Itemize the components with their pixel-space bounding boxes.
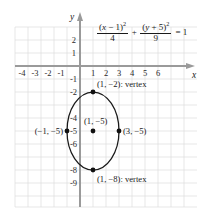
x-tick: -4 <box>18 68 26 78</box>
equation-plus-sign: + <box>132 28 137 37</box>
x-axis-arrow <box>186 63 195 69</box>
y-tick: -6 <box>70 139 77 149</box>
x-tick: 2 <box>104 68 108 78</box>
y-tick: -5 <box>70 126 77 136</box>
term1-exponent: 2 <box>123 20 126 27</box>
point-center <box>91 129 96 134</box>
term2-exponent: 2 <box>166 20 169 27</box>
term2-constant: 5 <box>159 22 164 32</box>
equation-term-2: (y + 5)2 9 <box>140 21 171 43</box>
term1-numerator: (x − 1)2 <box>97 21 128 34</box>
point-left-covertex <box>65 129 70 134</box>
y-tick: -4 <box>70 113 78 123</box>
term2-operator: + <box>152 22 157 32</box>
x-tick: 5 <box>143 68 147 78</box>
point-bottom-vertex <box>91 168 96 173</box>
y-tick: -8 <box>70 165 77 175</box>
x-tick: 6 <box>156 68 160 78</box>
x-tick: -1 <box>57 68 64 78</box>
y-tick: 2 <box>72 35 76 45</box>
term1-operator: − <box>108 22 113 32</box>
point-right-covertex <box>117 129 122 134</box>
y-tick: -9 <box>70 178 77 188</box>
equation-term-1: (x − 1)2 4 <box>97 21 128 43</box>
term2-denominator: 9 <box>154 34 159 44</box>
y-tick: -1 <box>70 74 77 84</box>
label-right-covertex: (3, −5) <box>123 126 147 136</box>
y-axis-arrow <box>77 12 83 21</box>
x-tick: 3 <box>117 68 121 78</box>
ellipse-figure: y x -4 -3 -2 -1 1 2 3 4 5 6 2 1 -1 -2 -4… <box>0 0 210 217</box>
y-tick: 1 <box>72 48 76 58</box>
y-axis-label: y <box>69 12 75 22</box>
term2-variable: y <box>145 22 149 32</box>
point-top-vertex <box>91 90 96 95</box>
term1-denominator: 4 <box>110 34 115 44</box>
x-tick: -2 <box>44 68 51 78</box>
term1-constant: 1 <box>116 22 121 32</box>
x-tick: 1 <box>91 68 95 78</box>
x-tick: -3 <box>31 68 38 78</box>
term1-variable: x <box>102 22 106 32</box>
x-tick: 4 <box>130 68 135 78</box>
x-axis-label: x <box>191 70 197 80</box>
term2-numerator: (y + 5)2 <box>140 21 171 34</box>
equation-equals: = 1 <box>175 28 187 37</box>
label-top-vertex: (1, −2): vertex <box>97 79 147 89</box>
label-bottom-vertex: (1, −8): vertex <box>97 174 147 184</box>
label-center: (1, −5) <box>84 116 108 126</box>
x-tick-labels: -4 -3 -2 -1 1 2 3 4 5 6 <box>18 68 160 78</box>
ellipse-equation: (x − 1)2 4 + (y + 5)2 9 = 1 <box>96 21 187 43</box>
y-tick: -2 <box>70 87 77 97</box>
label-left-covertex: (−1, −5) <box>35 126 63 136</box>
